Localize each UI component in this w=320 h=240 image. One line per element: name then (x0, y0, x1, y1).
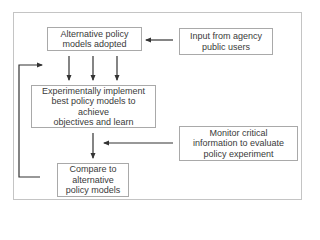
node-label: Input from agency public users (190, 31, 262, 52)
node-alternative-models-adopted: Alternative policy models adopted (47, 27, 142, 51)
node-compare-alternatives: Compare to alternative policy models (57, 163, 129, 197)
node-input-from-agency: Input from agency public users (179, 28, 273, 55)
node-label: Compare to alternative policy models (66, 164, 121, 196)
node-label: Experimentally implement best policy mod… (35, 86, 152, 128)
node-label: Monitor critical information to evaluate… (193, 128, 284, 160)
node-label: Alternative policy models adopted (60, 29, 128, 50)
node-experimentally-implement: Experimentally implement best policy mod… (31, 85, 156, 128)
node-monitor-critical-info: Monitor critical information to evaluate… (179, 126, 298, 161)
